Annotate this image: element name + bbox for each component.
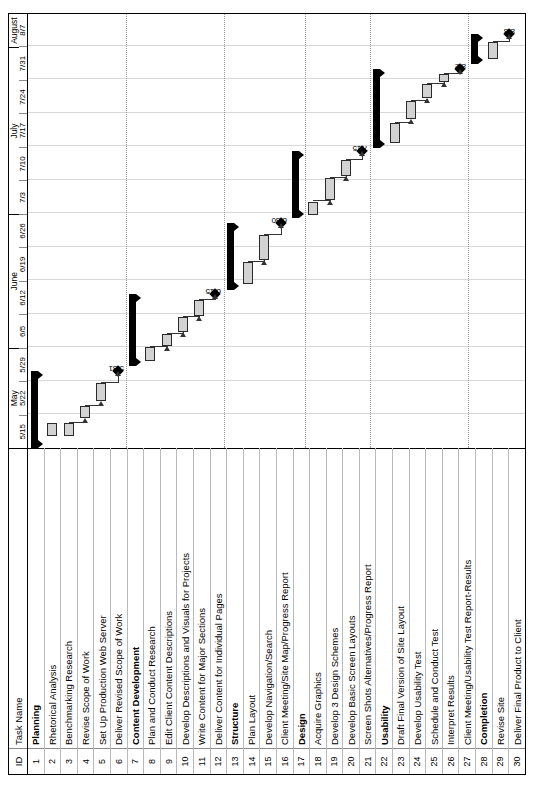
table-row[interactable]: 8Plan and Conduct Research	[144, 448, 161, 774]
summary-bar[interactable]	[292, 151, 299, 218]
task-name-cell: Deliver Final Product to Client	[509, 448, 525, 748]
dependency-arrow-icon	[278, 223, 284, 228]
task-bar[interactable]	[145, 347, 155, 360]
table-row[interactable]: 7Content Development	[128, 448, 145, 774]
table-row[interactable]: 17Design	[294, 448, 311, 774]
task-bar[interactable]	[325, 178, 335, 200]
task-bar[interactable]	[341, 160, 351, 177]
task-name-cell: Rhetorical Analysis	[45, 448, 61, 748]
task-name-cell: Design	[294, 448, 310, 748]
table-row[interactable]: 4Revise Scope of Work	[78, 448, 95, 774]
table-row[interactable]: 30Deliver Final Product to Client	[509, 448, 525, 774]
task-name-cell: Develop 3 Design Schemes	[327, 448, 343, 748]
task-id-cell: 3	[61, 748, 77, 774]
task-bar[interactable]	[243, 262, 253, 284]
task-id-cell: 30	[509, 748, 525, 774]
task-id-cell: 6	[111, 748, 127, 774]
table-row[interactable]: 25Schedule and Conduct Test	[426, 448, 443, 774]
table-row[interactable]: 12Deliver Content for Individual Pages	[211, 448, 228, 774]
table-row[interactable]: 29Revise Site	[493, 448, 510, 774]
task-bar[interactable]	[406, 101, 416, 119]
table-row[interactable]: 21Screen Shots Alternatives/Progress Rep…	[360, 448, 377, 774]
task-id-cell: 2	[45, 748, 61, 774]
row-band-gridline	[468, 14, 469, 448]
column-header-task-name: Task Name	[9, 448, 27, 748]
table-row[interactable]: 14Plan Layout	[244, 448, 261, 774]
task-name-cell: Usability	[376, 448, 392, 748]
table-row[interactable]: 9Edit Client Content Descriptions	[161, 448, 178, 774]
task-bar[interactable]	[178, 317, 188, 332]
timescale-week: 7/3	[19, 180, 27, 213]
task-bar[interactable]	[194, 300, 204, 315]
task-bar[interactable]	[390, 123, 400, 143]
dependency-arrow-icon	[115, 371, 121, 376]
task-bar[interactable]	[162, 334, 172, 346]
task-id-cell: 14	[244, 748, 260, 774]
task-id-cell: 8	[144, 748, 160, 774]
timeline-gridline	[28, 179, 525, 180]
timeline-gridline	[28, 145, 525, 146]
task-name-cell: Set Up Production Web Server	[94, 448, 110, 748]
task-bar[interactable]	[47, 423, 57, 436]
task-bar[interactable]	[308, 202, 318, 215]
task-name-cell: Develop Descriptions and Visuals for Pro…	[177, 448, 193, 748]
table-row[interactable]: 27Client Meeting/Usability Test Report-R…	[459, 448, 476, 774]
timeline-gridline	[28, 45, 525, 46]
timescale-week: 7/24	[19, 80, 27, 113]
task-bar[interactable]	[96, 383, 106, 401]
table-row[interactable]: 10Develop Descriptions and Visuals for P…	[177, 448, 194, 774]
timescale-week: 6/12	[19, 281, 27, 314]
table-row[interactable]: 13Structure	[227, 448, 244, 774]
dependency-arrow-icon	[212, 294, 218, 299]
summary-bar[interactable]	[471, 34, 478, 64]
row-band-gridline	[305, 14, 306, 448]
task-id-cell: 12	[211, 748, 227, 774]
task-bar[interactable]	[80, 406, 90, 418]
dependency-arrow-icon	[261, 260, 267, 265]
table-row[interactable]: 2Rhetorical Analysis	[45, 448, 62, 774]
table-row[interactable]: 3Benchmarking Research	[61, 448, 78, 774]
table-row[interactable]: 6Deliver Revised Scope of Work	[111, 448, 128, 774]
task-id-cell: 1	[28, 748, 44, 774]
table-body: 1Planning2Rhetorical Analysis3Benchmarki…	[28, 448, 525, 774]
table-row[interactable]: 23Draft Final Version of Site Layout	[393, 448, 410, 774]
task-id-cell: 7	[128, 748, 144, 774]
task-id-cell: 27	[459, 748, 475, 774]
task-id-cell: 23	[393, 748, 409, 774]
summary-bar[interactable]	[31, 371, 38, 448]
table-row[interactable]: 22Usability	[376, 448, 393, 774]
task-id-cell: 29	[493, 748, 509, 774]
table-row[interactable]: 26Interpret Results	[443, 448, 460, 774]
chart-frame: ID Task Name 1Planning2Rhetorical Analys…	[8, 13, 526, 775]
timescale-week: 7/31	[19, 46, 27, 79]
table-row[interactable]: 5Set Up Production Web Server	[94, 448, 111, 774]
task-bar[interactable]	[422, 84, 432, 97]
summary-bar[interactable]	[227, 223, 234, 290]
table-row[interactable]: 18Acquire Graphics	[310, 448, 327, 774]
task-bar[interactable]	[259, 235, 269, 260]
summary-bar[interactable]	[373, 69, 380, 148]
table-row[interactable]: 11Write Content for Major Sections	[194, 448, 211, 774]
task-table: ID Task Name 1Planning2Rhetorical Analys…	[9, 448, 525, 774]
task-id-cell: 4	[78, 748, 94, 774]
table-row[interactable]: 20Develop Basic Screen Layouts	[343, 448, 360, 774]
table-row[interactable]: 24Develop Usability Test	[410, 448, 427, 774]
task-bar[interactable]	[64, 423, 74, 436]
timeline-gridline	[28, 112, 525, 113]
timescale-week: 6/5	[19, 314, 27, 347]
gantt-chart-sheet: ID Task Name 1Planning2Rhetorical Analys…	[0, 0, 535, 789]
table-row[interactable]: 19Develop 3 Design Schemes	[327, 448, 344, 774]
table-row[interactable]: 28Completion	[476, 448, 493, 774]
summary-bar[interactable]	[129, 294, 136, 366]
table-row[interactable]: 16Client Meeting/Site Map/Progress Repor…	[277, 448, 294, 774]
timescale-weeks: 5/155/225/296/56/126/196/267/37/107/177/…	[19, 14, 28, 448]
task-id-cell: 17	[294, 748, 310, 774]
task-id-cell: 24	[410, 748, 426, 774]
table-row[interactable]: 15Develop Navigation/Search	[260, 448, 277, 774]
task-name-cell: Draft Final Version of Site Layout	[393, 448, 409, 748]
task-id-cell: 13	[227, 748, 243, 774]
dependency-arrow-icon	[343, 176, 349, 181]
task-bar[interactable]	[488, 42, 498, 59]
task-name-cell: Write Content for Major Sections	[194, 448, 210, 748]
table-row[interactable]: 1Planning	[28, 448, 45, 774]
